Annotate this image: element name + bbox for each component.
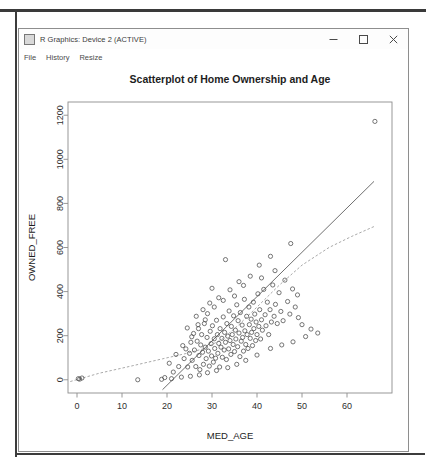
data-point — [206, 349, 210, 353]
data-point — [237, 280, 241, 284]
data-point — [245, 332, 249, 336]
window-titlebar[interactable]: R Graphics: Device 2 (ACTIVE) — [19, 29, 408, 49]
page-rule-bottom — [15, 453, 425, 455]
data-point — [229, 324, 233, 328]
data-point — [258, 308, 262, 312]
data-point — [228, 338, 232, 342]
data-point — [248, 336, 252, 340]
data-point — [207, 364, 211, 368]
data-point — [189, 340, 193, 344]
data-point — [241, 283, 245, 287]
page-rule-left — [15, 9, 17, 457]
data-point — [225, 321, 229, 325]
plot-canvas: Scatterplot of Home Ownership and Age 01… — [19, 65, 408, 451]
data-point — [259, 318, 263, 322]
data-point — [279, 309, 283, 313]
data-point — [249, 317, 253, 321]
data-point — [286, 299, 290, 303]
data-point — [229, 352, 233, 356]
data-point — [290, 287, 294, 291]
data-point — [273, 269, 277, 273]
r-graphics-icon — [24, 34, 35, 45]
y-axis-label: OWNED_FREE — [26, 214, 37, 281]
data-point — [250, 344, 254, 348]
data-point — [181, 344, 185, 348]
plot-frame — [68, 102, 392, 393]
data-point — [373, 119, 377, 123]
data-point — [232, 294, 236, 298]
data-point — [247, 323, 251, 327]
data-point — [257, 263, 261, 267]
data-point — [269, 320, 273, 324]
data-point — [237, 331, 241, 335]
data-point — [201, 362, 205, 366]
x-axis-tick-label: 10 — [117, 401, 127, 411]
scatterplot-svg: Scatterplot of Home Ownership and Age 01… — [19, 65, 408, 451]
close-icon[interactable] — [378, 29, 408, 49]
data-point — [240, 323, 244, 327]
y-axis-tick-label: 400 — [55, 284, 65, 299]
data-point — [187, 351, 191, 355]
x-axis-tick-label: 0 — [74, 401, 79, 411]
data-point — [254, 338, 258, 342]
data-point — [272, 314, 276, 318]
y-axis-tick-label: 0 — [55, 377, 65, 382]
data-point — [221, 315, 225, 319]
y-axis-group: 020040060080010001200 — [55, 105, 68, 382]
data-point — [232, 314, 236, 318]
data-point — [247, 305, 251, 309]
x-axis-tick-label: 20 — [162, 401, 172, 411]
minimize-icon[interactable] — [318, 29, 348, 49]
data-point — [226, 366, 230, 370]
data-point — [210, 324, 214, 328]
data-point — [196, 327, 200, 331]
data-point — [200, 332, 204, 336]
data-point — [234, 337, 238, 341]
data-point — [259, 337, 263, 341]
data-point — [289, 241, 293, 245]
data-point — [227, 347, 231, 351]
data-point — [210, 286, 214, 290]
data-point — [213, 346, 217, 350]
data-point — [211, 360, 215, 364]
data-point — [304, 334, 308, 338]
data-point — [136, 378, 140, 382]
data-point — [236, 345, 240, 349]
data-point — [255, 332, 259, 336]
data-point — [231, 342, 235, 346]
r-graphics-window: R Graphics: Device 2 (ACTIVE) — [18, 28, 409, 452]
data-point — [223, 330, 227, 334]
data-point — [185, 326, 189, 330]
data-point — [246, 346, 250, 350]
data-point — [268, 346, 272, 350]
maximize-icon[interactable] — [348, 29, 378, 49]
data-point — [214, 368, 218, 372]
data-point — [244, 342, 248, 346]
x-axis-tick-label: 60 — [342, 401, 352, 411]
chart-title-group: Scatterplot of Home Ownership and Age — [130, 73, 331, 85]
data-point — [259, 276, 263, 280]
data-point — [197, 373, 201, 377]
data-point — [254, 320, 258, 324]
data-point — [238, 355, 242, 359]
data-point — [224, 357, 228, 361]
data-point — [222, 348, 226, 352]
data-point — [236, 319, 240, 323]
data-point — [291, 340, 295, 344]
data-point — [184, 347, 188, 351]
data-point — [233, 328, 237, 332]
x-axis-tick-label: 40 — [252, 401, 262, 411]
data-point — [257, 324, 261, 328]
menu-item-resize[interactable]: Resize — [79, 53, 102, 62]
menu-item-history[interactable]: History — [46, 53, 69, 62]
menu-item-file[interactable]: File — [24, 53, 36, 62]
data-point — [194, 364, 198, 368]
data-point — [288, 312, 292, 316]
y-axis-tick-label: 800 — [55, 196, 65, 211]
data-point — [199, 343, 203, 347]
data-point — [264, 324, 268, 328]
data-point — [241, 349, 245, 353]
data-point — [196, 323, 200, 327]
data-point — [188, 374, 192, 378]
data-point — [280, 343, 284, 347]
